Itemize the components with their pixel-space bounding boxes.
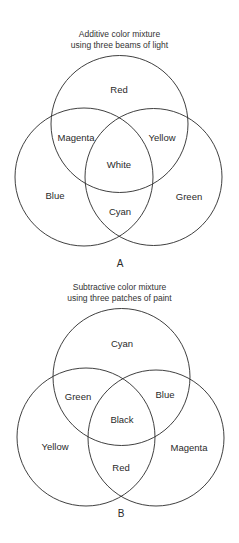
venn-a-circle-left bbox=[15, 108, 153, 246]
diagram-b-title: Subtractive color mixture using three pa… bbox=[0, 282, 239, 304]
region-b-center: Black bbox=[110, 414, 133, 425]
venn-b-circle-top bbox=[53, 309, 190, 446]
region-a-right: Green bbox=[176, 191, 202, 202]
diagram-b-title-line2: using three patches of paint bbox=[0, 293, 239, 304]
region-b-right: Magenta bbox=[171, 442, 208, 453]
diagram-b-title-line1: Subtractive color mixture bbox=[0, 282, 239, 293]
region-a-top-left: Magenta bbox=[58, 132, 95, 143]
panel-label-a: A bbox=[117, 258, 124, 269]
region-b-top-right: Blue bbox=[155, 389, 174, 400]
region-a-bottom-center: Cyan bbox=[109, 206, 131, 217]
region-a-top-right: Yellow bbox=[148, 132, 175, 143]
region-a-top: Red bbox=[110, 84, 127, 95]
region-b-top: Cyan bbox=[111, 338, 133, 349]
region-b-bottom-center: Red bbox=[112, 462, 129, 473]
venn-a-circle-right bbox=[85, 109, 222, 246]
region-a-center: White bbox=[107, 159, 131, 170]
region-b-top-left: Green bbox=[65, 391, 91, 402]
diagram-a-title-line1: Additive color mixture bbox=[0, 29, 239, 40]
region-b-left: Yellow bbox=[41, 441, 68, 452]
region-a-left: Blue bbox=[45, 190, 64, 201]
diagram-a-title: Additive color mixture using three beams… bbox=[0, 29, 239, 51]
diagram-a-title-line2: using three beams of light bbox=[0, 40, 239, 51]
venn-b-circle-left bbox=[17, 368, 155, 506]
venn-a-circle-top bbox=[51, 56, 188, 193]
panel-label-b: B bbox=[118, 508, 125, 519]
